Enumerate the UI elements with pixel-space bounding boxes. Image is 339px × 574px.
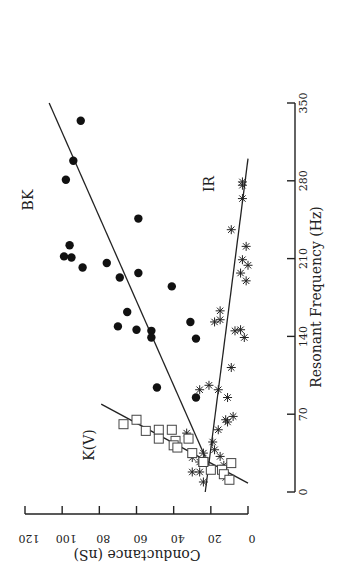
data-point-bk — [192, 393, 200, 401]
data-point-kv — [154, 434, 163, 443]
data-point-kv — [154, 425, 163, 434]
axes — [25, 103, 295, 514]
data-point-bk — [132, 326, 140, 334]
y-axis-label: Conductance (nS) — [73, 547, 200, 563]
data-point-ir — [210, 445, 219, 454]
y-tick-label: 40 — [171, 532, 185, 545]
data-point-ir — [214, 425, 223, 434]
data-point-ir — [236, 325, 245, 334]
data-point-kv — [225, 475, 234, 484]
y-ticks: 020406080100120 — [19, 506, 256, 545]
data-point-ir — [214, 385, 223, 394]
data-point-ir — [240, 333, 249, 342]
labels: Resonant Frequency (Hz) Conductance (nS)… — [20, 176, 324, 563]
data-point-ir — [216, 452, 225, 461]
data-point-kv — [132, 415, 141, 424]
data-point-ir — [195, 467, 204, 476]
data-point-bk — [67, 253, 75, 261]
data-point-ir — [204, 381, 213, 390]
data-point-kv — [173, 443, 182, 452]
data-point-ir — [227, 363, 236, 372]
y-tick-label: 60 — [134, 532, 148, 545]
data-point-bk — [78, 263, 86, 271]
series-label-ir: IR — [201, 176, 217, 193]
data-point-kv — [199, 457, 208, 466]
data-point-bk — [103, 259, 111, 267]
data-point-bk — [114, 322, 122, 330]
data-point-ir — [236, 269, 245, 278]
x-ticks: 070140210280350 — [287, 93, 310, 496]
data-point-bk — [77, 117, 85, 125]
data-point-bk — [69, 157, 77, 165]
data-point-ir — [195, 385, 204, 394]
data-point-bk — [186, 318, 194, 326]
data-point-bk — [192, 334, 200, 342]
scatter-chart: 070140210280350 020406080100120 Resonant… — [0, 0, 339, 574]
data-point-ir — [238, 194, 247, 203]
data-point-bk — [123, 308, 131, 316]
data-point-kv — [188, 449, 197, 458]
data-point-ir — [223, 417, 232, 426]
data-point-kv — [119, 420, 128, 429]
data-point-kv — [227, 459, 236, 468]
series-label-kv: K(V) — [81, 429, 97, 461]
data-point-bk — [134, 269, 142, 277]
data-point-kv — [167, 425, 176, 434]
data-point-ir — [238, 181, 247, 190]
data-point-bk — [134, 214, 142, 222]
y-tick-label: 120 — [19, 532, 40, 545]
y-tick-label: 0 — [249, 532, 256, 545]
series-label-bk: BK — [20, 189, 36, 210]
data-point-bk — [168, 282, 176, 290]
data-point-bk — [62, 175, 70, 183]
data-point-bk — [153, 383, 161, 391]
x-tick-label: 70 — [297, 407, 310, 421]
data-point-ir — [227, 225, 236, 234]
data-point-bk — [147, 333, 155, 341]
data-point-bk — [60, 252, 68, 260]
x-axis-label: Resonant Frequency (Hz) — [308, 206, 324, 388]
x-tick-label: 280 — [297, 170, 310, 191]
data-point-kv — [184, 434, 193, 443]
y-tick-label: 20 — [208, 532, 222, 545]
data-point-ir — [199, 449, 208, 458]
x-tick-label: 350 — [297, 93, 310, 114]
data-point-ir — [216, 306, 225, 315]
y-tick-label: 100 — [56, 532, 77, 545]
data-point-ir — [242, 276, 251, 285]
data-point-ir — [242, 242, 251, 251]
data-point-ir — [208, 437, 217, 446]
data-point-kv — [141, 426, 150, 435]
data-point-bk — [116, 273, 124, 281]
data-point-ir — [223, 393, 232, 402]
y-tick-label: 80 — [96, 532, 110, 545]
data-point-ir — [244, 261, 253, 270]
data-point-bk — [65, 241, 73, 249]
data-point-ir — [216, 315, 225, 324]
data-point-ir — [199, 477, 208, 486]
x-tick-label: 0 — [297, 489, 310, 496]
